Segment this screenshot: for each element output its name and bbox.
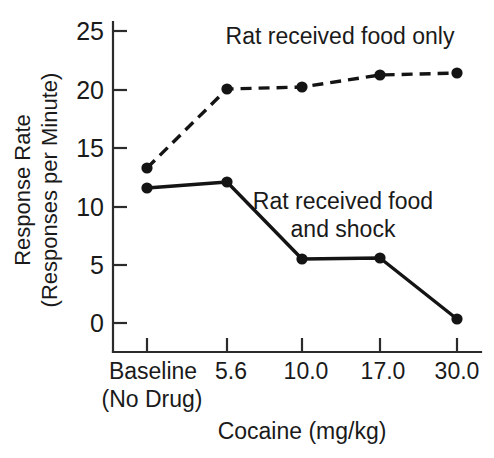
y-tick-label-0: 0 bbox=[90, 309, 104, 337]
data-point-food-and-shock-baseline bbox=[141, 182, 152, 193]
x-tick-label-baseline: Baseline bbox=[109, 358, 197, 384]
x-tick-label-5-6: 5.6 bbox=[215, 358, 247, 384]
annotation-food-only: Rat received food only bbox=[226, 23, 455, 49]
data-point-food-only-30-0 bbox=[451, 67, 462, 78]
y-tick-label-25: 25 bbox=[76, 17, 104, 45]
y-axis-title-line2: (Responses per Minute) bbox=[37, 73, 62, 308]
annotation-food-and-shock-line2: and shock bbox=[291, 216, 396, 242]
y-tick-label-20: 20 bbox=[76, 76, 104, 104]
annotation-food-and-shock-line1: Rat received food bbox=[253, 188, 433, 214]
data-point-food-and-shock-5-6 bbox=[221, 176, 232, 187]
x-axis-title: Cocaine (mg/kg) bbox=[218, 418, 387, 444]
y-axis-title-line1: Response Rate bbox=[10, 114, 35, 266]
chart-figure: 25 20 15 10 5 0 Baseline (No Drug) 5.6 1… bbox=[0, 0, 494, 458]
data-point-food-and-shock-30-0 bbox=[451, 313, 462, 324]
y-tick-label-10: 10 bbox=[76, 193, 104, 221]
data-point-food-only-5-6 bbox=[221, 83, 232, 94]
data-point-food-and-shock-10-0 bbox=[296, 253, 307, 264]
data-point-food-only-10-0 bbox=[296, 81, 307, 92]
x-tick-label-10-0: 10.0 bbox=[284, 358, 329, 384]
x-tick-label-baseline-sub: (No Drug) bbox=[102, 386, 203, 412]
y-tick-label-5: 5 bbox=[90, 251, 104, 279]
chart-plot-area: 25 20 15 10 5 0 Baseline (No Drug) 5.6 1… bbox=[0, 0, 494, 458]
data-point-food-only-baseline bbox=[141, 162, 152, 173]
x-tick-label-17-0: 17.0 bbox=[361, 358, 406, 384]
data-point-food-and-shock-17-0 bbox=[374, 252, 385, 263]
y-tick-label-15: 15 bbox=[76, 134, 104, 162]
data-point-food-only-17-0 bbox=[374, 69, 385, 80]
x-tick-label-30-0: 30.0 bbox=[435, 358, 480, 384]
